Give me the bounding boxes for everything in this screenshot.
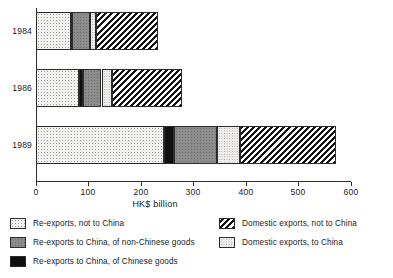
x-axis-title: HK$ billion xyxy=(0,199,310,209)
segment-1986-domestic-exports-not-to-china xyxy=(112,69,183,107)
x-tick-label-100: 100 xyxy=(81,187,96,197)
x-tick-label-300: 300 xyxy=(186,187,201,197)
segment-1989-reexports-to-china-non-chinese-goods xyxy=(174,126,218,164)
legend-item-reexports-to-china-chinese-goods: Re-exports to China, of Chinese goods xyxy=(10,256,178,267)
x-tick-600 xyxy=(351,182,352,186)
segment-1989-reexports-not-to-china xyxy=(36,126,164,164)
legend-label-domestic-exports-to-china: Domestic exports, to China xyxy=(242,238,343,247)
x-tick-label-0: 0 xyxy=(34,187,39,197)
x-tick-500 xyxy=(298,182,299,186)
category-label-1989: 1989 xyxy=(2,140,32,150)
segment-1989-domestic-exports-not-to-china xyxy=(240,126,336,164)
x-tick-400 xyxy=(246,182,247,186)
legend-swatch-reexports-to-china-chinese-goods xyxy=(10,256,26,267)
legend-swatch-reexports-to-china-non-chinese-goods xyxy=(10,237,26,248)
segment-1984-reexports-to-china-non-chinese-goods xyxy=(72,12,90,50)
segment-1986-reexports-not-to-china xyxy=(36,69,79,107)
x-tick-0 xyxy=(36,182,37,186)
legend-item-domestic-exports-to-china: Domestic exports, to China xyxy=(219,237,343,248)
legend-item-domestic-exports-not-to-china: Domestic exports, not to China xyxy=(219,218,357,229)
plot-area: 0 100 200 300 400 500 600 1984 1986 1989 xyxy=(0,0,393,200)
segment-1989-reexports-to-china-chinese-goods xyxy=(164,126,173,164)
x-tick-label-400: 400 xyxy=(239,187,254,197)
x-tick-300 xyxy=(193,182,194,186)
legend-swatch-domestic-exports-to-china xyxy=(219,237,235,248)
legend-swatch-domestic-exports-not-to-china xyxy=(219,218,235,229)
category-label-1984: 1984 xyxy=(2,26,32,36)
legend-item-reexports-not-to-china: Re-exports, not to China xyxy=(10,218,124,229)
legend-swatch-reexports-not-to-china xyxy=(10,218,26,229)
segment-1984-domestic-exports-not-to-china xyxy=(96,12,158,50)
segment-1986-domestic-exports-to-china xyxy=(102,69,112,107)
x-tick-100 xyxy=(88,182,89,186)
segment-1989-domestic-exports-to-china xyxy=(217,126,240,164)
segment-1984-reexports-not-to-china xyxy=(36,12,71,50)
segment-1986-reexports-to-china-non-chinese-goods xyxy=(83,69,101,107)
x-tick-label-500: 500 xyxy=(291,187,306,197)
category-label-1986: 1986 xyxy=(2,83,32,93)
x-tick-label-600: 600 xyxy=(344,187,359,197)
x-tick-200 xyxy=(141,182,142,186)
chart-root: 0 100 200 300 400 500 600 1984 1986 1989 xyxy=(0,0,393,278)
legend-label-domestic-exports-not-to-china: Domestic exports, not to China xyxy=(242,219,357,228)
legend: Re-exports, not to China Re-exports to C… xyxy=(0,216,393,278)
legend-label-reexports-to-china-non-chinese-goods: Re-exports to China, of non-Chinese good… xyxy=(33,238,195,247)
legend-item-reexports-to-china-non-chinese-goods: Re-exports to China, of non-Chinese good… xyxy=(10,237,195,248)
legend-label-reexports-to-china-chinese-goods: Re-exports to China, of Chinese goods xyxy=(33,257,178,266)
legend-label-reexports-not-to-china: Re-exports, not to China xyxy=(33,219,124,228)
x-tick-label-200: 200 xyxy=(134,187,149,197)
